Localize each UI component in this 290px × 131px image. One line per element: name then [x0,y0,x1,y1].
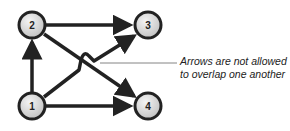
graph-diagram: 2 3 1 4 Arrows are not allowed to overla… [0,0,290,131]
node-2: 2 [19,12,45,38]
node-4: 4 [135,93,161,119]
annotation-text: Arrows are not allowed to overlap one an… [180,55,287,81]
annotation-line-1: Arrows are not allowed [180,55,287,68]
svg-text:2: 2 [29,20,35,31]
svg-text:1: 1 [29,101,35,112]
svg-text:4: 4 [145,101,151,112]
node-3: 3 [135,12,161,38]
node-1: 1 [19,93,45,119]
annotation-line-2: to overlap one another [180,68,287,81]
svg-text:3: 3 [145,20,151,31]
